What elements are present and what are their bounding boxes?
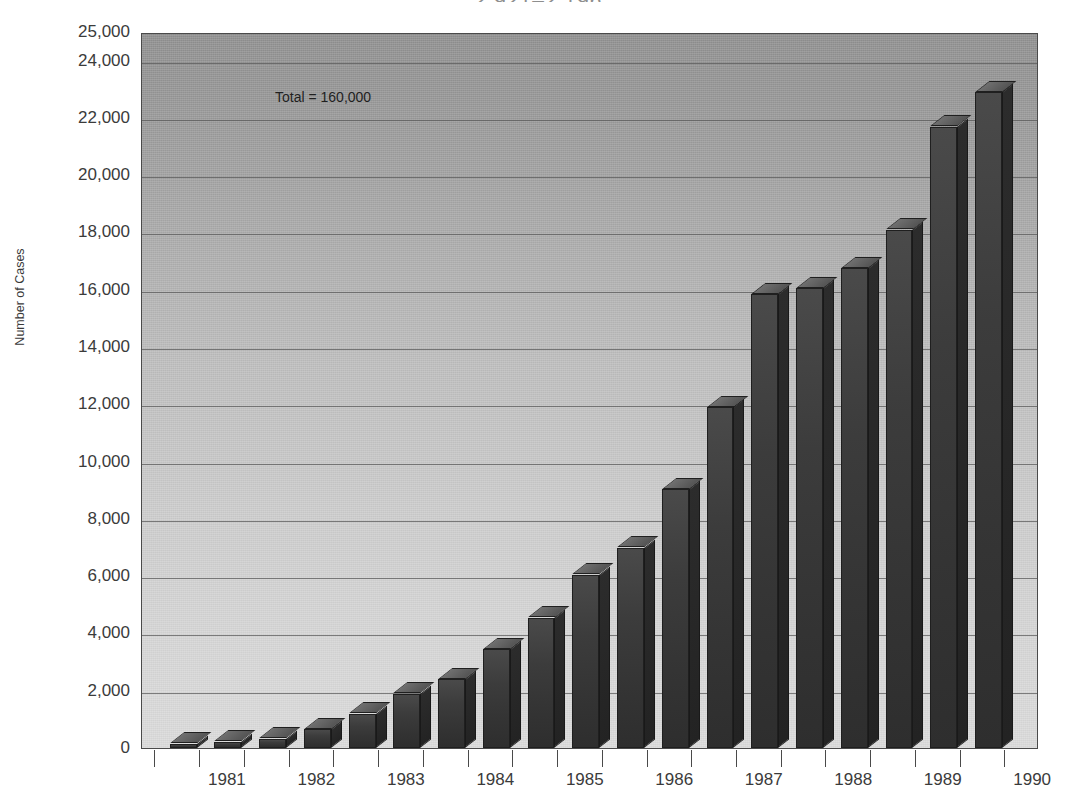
y-tick-label: 0 bbox=[10, 738, 130, 758]
x-tick bbox=[512, 750, 513, 767]
x-tick bbox=[781, 750, 782, 767]
y-tick-label: 2,000 bbox=[10, 681, 130, 701]
x-axis-label: 1983 bbox=[361, 770, 451, 790]
x-tick bbox=[602, 750, 603, 767]
x-tick bbox=[333, 750, 334, 767]
y-tick-label: 4,000 bbox=[10, 623, 130, 643]
x-tick bbox=[557, 750, 558, 767]
x-tick bbox=[199, 750, 200, 767]
x-axis-label: 1984 bbox=[450, 770, 540, 790]
x-axis-label: 1981 bbox=[182, 770, 272, 790]
y-tick-label: 25,000 bbox=[10, 22, 130, 42]
x-axis-label: 1986 bbox=[629, 770, 719, 790]
x-tick bbox=[1004, 750, 1005, 767]
x-axis-label: 1985 bbox=[540, 770, 630, 790]
x-axis-label: 1990 bbox=[987, 770, 1077, 790]
x-tick bbox=[691, 750, 692, 767]
y-tick-label: 24,000 bbox=[10, 51, 130, 71]
y-tick-label: 18,000 bbox=[10, 222, 130, 242]
y-tick-label: 16,000 bbox=[10, 280, 130, 300]
y-tick-label: 6,000 bbox=[10, 566, 130, 586]
x-tick bbox=[154, 750, 155, 767]
x-tick bbox=[289, 750, 290, 767]
y-tick-label: 14,000 bbox=[10, 337, 130, 357]
y-tick-label: 8,000 bbox=[10, 509, 130, 529]
y-tick-label: 20,000 bbox=[10, 165, 130, 185]
x-axis-label: 1982 bbox=[271, 770, 361, 790]
x-tick bbox=[736, 750, 737, 767]
y-tick-label: 10,000 bbox=[10, 452, 130, 472]
x-axis-label: 1989 bbox=[898, 770, 988, 790]
x-tick bbox=[378, 750, 379, 767]
x-tick bbox=[244, 750, 245, 767]
x-axis-label: 1987 bbox=[719, 770, 809, 790]
x-tick bbox=[423, 750, 424, 767]
x-tick bbox=[647, 750, 648, 767]
y-tick-label: 12,000 bbox=[10, 394, 130, 414]
y-axis-ticks: 25,00024,00022,00020,00018,00016,00014,0… bbox=[0, 0, 1077, 808]
x-axis-label: 1988 bbox=[808, 770, 898, 790]
x-tick bbox=[468, 750, 469, 767]
y-tick-label: 22,000 bbox=[10, 108, 130, 128]
x-tick bbox=[870, 750, 871, 767]
chart-root: 2,921–2,196 Number of Cases Total = 160,… bbox=[0, 0, 1077, 808]
x-tick bbox=[960, 750, 961, 767]
x-tick bbox=[915, 750, 916, 767]
x-tick bbox=[825, 750, 826, 767]
